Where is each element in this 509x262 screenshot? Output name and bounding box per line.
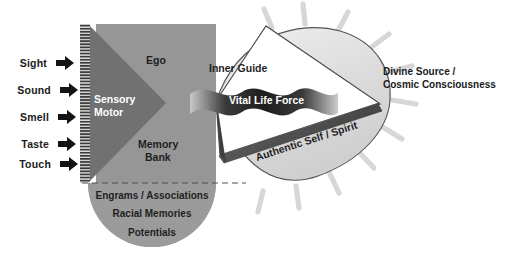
subconscious-item-potentials: Potentials — [128, 227, 176, 238]
diagram-canvas: Sight Sound Smell Taste Touch Sensory Mo… — [0, 0, 509, 262]
memory-bank-label-line2: Bank — [145, 151, 171, 163]
subconscious-item-engrams: Engrams / Associations — [96, 190, 209, 201]
sensory-input-strip — [80, 24, 90, 183]
divine-source-label-line2: Cosmic Consciousness — [383, 79, 496, 90]
ego-label: Ego — [146, 54, 166, 66]
ray — [358, 151, 374, 168]
arrow-right-icon — [60, 83, 78, 97]
arrow-right-icon — [58, 110, 76, 124]
sense-arrows — [56, 56, 78, 171]
ray — [264, 9, 272, 28]
sensory-motor-label-line1: Sensory — [94, 93, 136, 105]
sense-label-sight: Sight — [20, 57, 48, 69]
vital-life-force-label: Vital Life Force — [229, 94, 304, 106]
sense-label-taste: Taste — [21, 138, 49, 150]
ray — [296, 186, 299, 208]
arrow-right-icon — [56, 56, 74, 70]
sense-label-smell: Smell — [20, 111, 49, 123]
arrow-right-icon — [60, 157, 78, 171]
sense-label-touch: Touch — [19, 158, 51, 170]
ray — [329, 172, 339, 193]
memory-bank-label-line1: Memory — [138, 138, 178, 150]
ray — [381, 126, 402, 139]
sense-label-sound: Sound — [17, 84, 51, 96]
ray — [369, 34, 389, 49]
inner-guide-label: Inner Guide — [209, 62, 268, 74]
consciousness-diagram: Sight Sound Smell Taste Touch Sensory Mo… — [0, 0, 509, 262]
ray — [303, 4, 305, 24]
arrow-right-icon — [58, 137, 76, 151]
ray — [258, 191, 263, 212]
ray — [338, 12, 348, 31]
divine-source-label-line1: Divine Source / — [383, 66, 455, 77]
ray — [392, 100, 416, 104]
sensory-motor-label-line2: Motor — [94, 106, 123, 118]
subconscious-item-racial: Racial Memories — [113, 208, 192, 219]
